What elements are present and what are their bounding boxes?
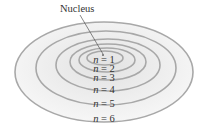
level-label-n4: n = 4 xyxy=(93,85,115,96)
bohr-energy-level-diagram: Nucleus n = 1 n = 2 n = 3 n = 4 n = 5 n … xyxy=(0,0,204,131)
level-var: n xyxy=(93,72,98,83)
level-var: n xyxy=(93,113,98,124)
level-value: 5 xyxy=(110,98,115,109)
level-var: n xyxy=(93,84,98,95)
level-label-n3: n = 3 xyxy=(93,73,115,84)
level-value: 3 xyxy=(110,72,115,83)
level-value: 4 xyxy=(110,84,115,95)
nucleus-label: Nucleus xyxy=(60,4,94,15)
level-label-n6: n = 6 xyxy=(93,114,115,125)
level-value: 6 xyxy=(110,113,115,124)
level-label-n5: n = 5 xyxy=(93,99,115,110)
level-var: n xyxy=(93,98,98,109)
